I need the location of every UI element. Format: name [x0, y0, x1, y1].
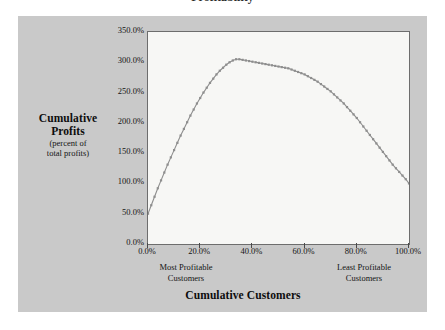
- data-point-marker: [176, 142, 178, 144]
- data-point-marker: [323, 85, 325, 87]
- data-point-marker: [180, 134, 182, 136]
- x-tick-mark: [147, 243, 148, 248]
- data-point-marker: [170, 156, 172, 158]
- data-point-marker: [160, 179, 162, 181]
- x-axis-tick-labels: 0.0%20.0%40.0%60.0%80.0%100.0%: [147, 247, 408, 261]
- data-point-marker: [297, 71, 299, 73]
- data-point-marker: [333, 93, 335, 95]
- most-profitable-line1: Most Profitable: [138, 262, 234, 273]
- data-point-marker: [385, 155, 387, 157]
- data-point-marker: [264, 63, 266, 65]
- data-point-marker: [166, 164, 168, 166]
- data-point-marker: [317, 81, 319, 83]
- y-axis-title-line2: Profits: [24, 125, 112, 138]
- data-point-marker: [405, 178, 407, 180]
- data-point-marker: [304, 73, 306, 75]
- data-point-marker: [395, 167, 397, 169]
- data-point-marker: [163, 171, 165, 173]
- data-point-marker: [388, 159, 390, 161]
- x-tick-mark: [408, 243, 409, 248]
- least-profitable-annotation: Least Profitable Customers: [314, 262, 414, 283]
- data-point-marker: [310, 77, 312, 79]
- data-point-marker: [258, 62, 260, 64]
- data-point-marker: [215, 73, 217, 75]
- data-point-marker: [238, 58, 240, 60]
- data-point-marker: [186, 121, 188, 123]
- data-point-marker: [287, 67, 289, 69]
- data-point-marker: [225, 64, 227, 66]
- data-point-marker: [150, 204, 152, 206]
- data-point-marker: [219, 70, 221, 72]
- data-point-marker: [183, 128, 185, 130]
- y-axis-subtitle-line2: total profits): [24, 149, 112, 159]
- cut-off-title-text: Profitability: [0, 0, 445, 5]
- x-tick-label: 20.0%: [188, 247, 210, 256]
- x-tick-label: 0.0%: [138, 247, 156, 256]
- data-point-marker: [173, 149, 175, 151]
- data-point-marker: [401, 174, 403, 176]
- data-point-marker: [148, 213, 149, 215]
- x-tick-mark: [356, 243, 357, 248]
- x-tick-label: 80.0%: [345, 247, 367, 256]
- data-point-marker: [255, 61, 257, 63]
- x-tick-mark: [251, 243, 252, 248]
- data-point-marker: [379, 147, 381, 149]
- y-tick-label: 100.0%: [118, 177, 144, 186]
- y-tick-label: 150.0%: [118, 147, 144, 156]
- data-point-marker: [294, 70, 296, 72]
- data-point-marker: [271, 64, 273, 66]
- data-point-marker: [209, 82, 211, 84]
- data-point-marker: [336, 96, 338, 98]
- chart-figure: Profitability 0.0%50.0%100.0%150.0%200.0…: [0, 0, 445, 330]
- data-point-marker: [206, 87, 208, 89]
- data-point-marker: [392, 164, 394, 166]
- most-profitable-annotation: Most Profitable Customers: [138, 262, 234, 283]
- data-point-marker: [359, 121, 361, 123]
- y-tick-label: 50.0%: [122, 208, 144, 217]
- plot-area: [147, 31, 410, 245]
- data-point-marker: [330, 90, 332, 92]
- data-point-marker: [222, 67, 224, 69]
- data-point-marker: [352, 113, 354, 115]
- data-point-marker: [349, 110, 351, 112]
- data-point-marker: [212, 78, 214, 80]
- data-point-marker: [251, 61, 253, 63]
- whale-curve-line: [148, 59, 409, 213]
- least-profitable-line2: Customers: [314, 273, 414, 284]
- whale-curve-svg: [148, 32, 409, 244]
- data-point-marker: [398, 171, 400, 173]
- data-point-marker: [346, 106, 348, 108]
- data-point-marker: [242, 59, 244, 61]
- y-tick-label: 250.0%: [118, 87, 144, 96]
- data-point-marker: [268, 64, 270, 66]
- data-point-marker: [326, 88, 328, 90]
- data-point-marker: [277, 65, 279, 67]
- data-point-marker: [199, 97, 201, 99]
- data-point-marker: [290, 68, 292, 70]
- data-point-marker: [157, 187, 159, 189]
- y-axis-subtitle-line1: (percent of: [24, 139, 112, 149]
- most-profitable-line2: Customers: [138, 273, 234, 284]
- data-point-marker: [196, 102, 198, 104]
- data-point-marker: [408, 182, 409, 184]
- data-point-marker: [281, 66, 283, 68]
- least-profitable-line1: Least Profitable: [314, 262, 414, 273]
- data-point-marker: [261, 62, 263, 64]
- x-axis-title: Cumulative Customers: [118, 289, 368, 301]
- data-point-marker: [193, 108, 195, 110]
- data-point-marker: [300, 72, 302, 74]
- y-axis-title-line1: Cumulative: [24, 112, 112, 125]
- data-point-marker: [284, 67, 286, 69]
- x-tick-mark: [199, 243, 200, 248]
- y-tick-label: 350.0%: [118, 26, 144, 35]
- y-axis-title: Cumulative Profits (percent of total pro…: [24, 112, 112, 159]
- data-point-marker: [313, 79, 315, 81]
- x-tick-label: 100.0%: [395, 247, 421, 256]
- data-point-marker: [235, 58, 237, 60]
- data-point-marker: [382, 151, 384, 153]
- y-tick-label: 300.0%: [118, 56, 144, 65]
- x-tick-mark: [304, 243, 305, 248]
- y-tick-label: 200.0%: [118, 117, 144, 126]
- figure-panel: 0.0%50.0%100.0%150.0%200.0%250.0%300.0%3…: [18, 16, 427, 312]
- data-point-marker: [202, 91, 204, 93]
